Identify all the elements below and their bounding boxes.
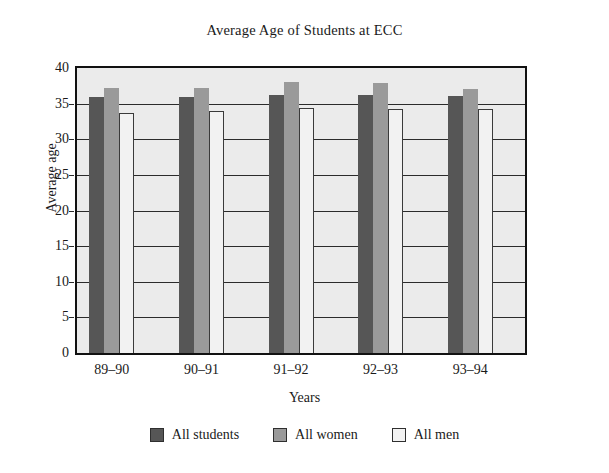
- legend-swatch-icon: [150, 428, 164, 442]
- bar-group: [269, 68, 314, 353]
- bar-group: [358, 68, 403, 353]
- chart-figure: Average Age of Students at ECC Average a…: [0, 0, 609, 473]
- x-tick-label: 90–91: [184, 362, 219, 378]
- chart-legend: All studentsAll womenAll men: [0, 427, 609, 443]
- x-tick-label: 91–92: [274, 362, 309, 378]
- y-tick-label: 10: [35, 274, 69, 290]
- bar: [269, 95, 284, 353]
- x-tick-label: 93–94: [453, 362, 488, 378]
- bar: [104, 88, 119, 353]
- legend-label: All women: [295, 427, 358, 443]
- y-tick-mark: [69, 282, 74, 283]
- legend-item[interactable]: All women: [273, 427, 358, 443]
- plot-inner: [77, 68, 525, 353]
- bar: [448, 96, 463, 353]
- bar: [194, 88, 209, 353]
- bar: [358, 95, 373, 353]
- y-tick-label: 15: [35, 238, 69, 254]
- y-tick-mark: [69, 175, 74, 176]
- legend-item[interactable]: All men: [392, 427, 460, 443]
- y-tick-label: 20: [35, 203, 69, 219]
- y-tick-label: 40: [35, 60, 69, 76]
- legend-label: All men: [414, 427, 460, 443]
- y-tick-label: 35: [35, 96, 69, 112]
- legend-item[interactable]: All students: [150, 427, 239, 443]
- bar: [209, 111, 224, 353]
- y-tick-label: 5: [35, 309, 69, 325]
- y-tick-label: 25: [35, 167, 69, 183]
- bar: [284, 82, 299, 353]
- plot-area: [75, 66, 527, 355]
- y-axis-ticks: 0510152025303540: [33, 66, 69, 355]
- y-tick-mark: [69, 246, 74, 247]
- legend-label: All students: [172, 427, 239, 443]
- y-tick-mark: [69, 139, 74, 140]
- bar: [478, 109, 493, 353]
- y-tick-label: 0: [35, 345, 69, 361]
- bar: [373, 83, 388, 353]
- bar-group: [448, 68, 493, 353]
- bar-group: [179, 68, 224, 353]
- x-axis-title: Years: [0, 390, 609, 406]
- x-tick-label: 92–93: [363, 362, 398, 378]
- y-tick-mark: [69, 317, 74, 318]
- bar: [89, 97, 104, 353]
- legend-swatch-icon: [392, 428, 406, 442]
- x-tick-label: 89–90: [94, 362, 129, 378]
- y-tick-mark: [69, 104, 74, 105]
- legend-swatch-icon: [273, 428, 287, 442]
- bar-group: [89, 68, 134, 353]
- y-tick-mark: [69, 211, 74, 212]
- bar: [463, 89, 478, 353]
- bar: [299, 108, 314, 353]
- bar: [119, 113, 134, 353]
- y-tick-label: 30: [35, 131, 69, 147]
- bar: [179, 97, 194, 353]
- bar: [388, 109, 403, 353]
- chart-title: Average Age of Students at ECC: [0, 22, 609, 39]
